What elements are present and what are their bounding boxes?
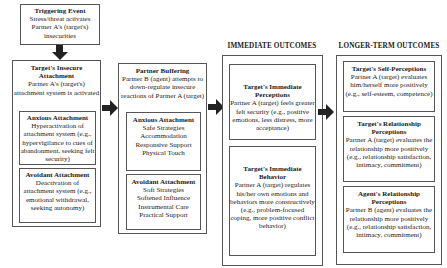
avoidant-attachment-box: Avoidant Attachment Deactivation of atta… <box>19 168 96 223</box>
partner-buffering-box: Partner Buffering Partner B (agent) atte… <box>118 63 207 234</box>
immediate-outcomes-box: Target's Immediate Perceptions Partner A… <box>222 55 323 266</box>
immediate-perceptions-body: Partner A (target) feels greater felt se… <box>230 99 315 132</box>
anxious-attachment-body: Hyperactivation of attachment system (e.… <box>21 122 95 163</box>
relationship-perceptions-body: Partner A (target) evaluates the relatio… <box>346 136 433 169</box>
buffering-avoidant-title: Avoidant Attachment <box>127 178 200 186</box>
avoidant-attachment-title: Avoidant Attachment <box>20 171 95 179</box>
self-perceptions-title: Target's Self-Perceptions <box>344 65 434 73</box>
immediate-perceptions-box: Target's Immediate Perceptions Partner A… <box>229 64 316 140</box>
buffering-anxious-item: Responsive Support <box>127 141 200 149</box>
agent-perceptions-box: Agent's Relationship Perceptions Partner… <box>343 186 435 253</box>
buffering-anxious-item: Safe Strategies <box>127 124 200 132</box>
triggering-event-box: Triggering Event Stress/threat activates… <box>20 4 100 45</box>
self-perceptions-body: Partner A (target) evaluates him/herself… <box>345 73 432 97</box>
agent-perceptions-title: Agent's Relationship Perceptions <box>344 190 434 206</box>
anxious-attachment-title: Anxious Attachment <box>20 114 95 122</box>
buffering-anxious-item: Accommodation <box>127 132 200 140</box>
agent-perceptions-body: Partner B (agent) evaluates the relation… <box>346 206 432 239</box>
buffering-avoidant-box: Avoidant Attachment Soft Strategies Soft… <box>126 174 201 230</box>
immediate-behavior-title: Target's Immediate Behavior <box>230 165 315 181</box>
buffering-avoidant-item: Softened Influence <box>127 194 200 202</box>
relationship-perceptions-box: Target's Relationship Perceptions Partne… <box>343 116 435 182</box>
longer-term-outcomes-box: Target's Self-Perceptions Partner A (tar… <box>336 55 442 265</box>
buffering-anxious-title: Anxious Attachment <box>127 116 200 124</box>
self-perceptions-box: Target's Self-Perceptions Partner A (tar… <box>343 61 435 112</box>
longer-term-outcomes-header: LONGER-TERM OUTCOMES <box>336 42 442 50</box>
buffering-avoidant-item: Soft Strategies <box>127 186 200 194</box>
partner-buffering-body: Partner B (agent) attempts to down-regul… <box>121 75 204 99</box>
insecure-attachment-body: Partner A's (target's) attachment system… <box>14 80 99 96</box>
buffering-avoidant-item: Practical Support <box>127 211 200 219</box>
immediate-behavior-body: Partner A (target) regulates his/her own… <box>230 181 315 230</box>
partner-buffering-title: Partner Buffering <box>119 67 206 75</box>
insecure-attachment-box: Target's Insecure Attachment Partner A's… <box>12 60 101 227</box>
insecure-attachment-title: Target's Insecure Attachment <box>13 64 100 80</box>
immediate-outcomes-header: IMMEDIATE OUTCOMES <box>222 42 322 50</box>
immediate-perceptions-title: Target's Immediate Perceptions <box>230 83 315 99</box>
relationship-perceptions-title: Target's Relationship Perceptions <box>344 120 434 136</box>
buffering-anxious-item: Physical Touch <box>127 149 200 157</box>
buffering-anxious-box: Anxious Attachment Safe Strategies Accom… <box>126 112 201 171</box>
immediate-behavior-box: Target's Immediate Behavior Partner A (t… <box>229 146 316 256</box>
triggering-event-title: Triggering Event <box>21 7 99 15</box>
anxious-attachment-box: Anxious Attachment Hyperactivation of at… <box>19 111 96 165</box>
avoidant-attachment-body: Deactivation of attachment system (e.g.,… <box>24 179 92 212</box>
triggering-event-body: Stress/threat activates Partner A's (tar… <box>30 15 91 39</box>
buffering-avoidant-item: Instrumental Care <box>127 203 200 211</box>
